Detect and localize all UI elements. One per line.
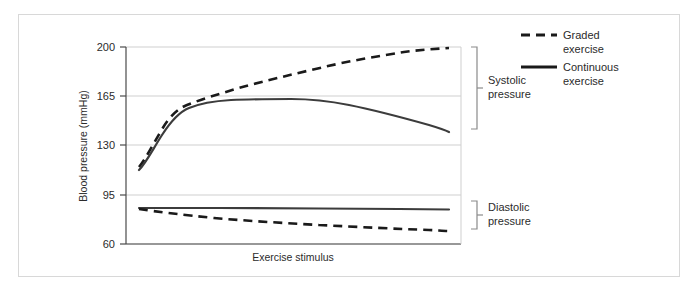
legend-label-continuous-line2: exercise <box>563 75 604 87</box>
bracket-label-systolic-line1: Systolic <box>488 74 526 86</box>
bracket-label-systolic-line2: pressure <box>488 88 531 100</box>
bracket-label-diastolic-line2: pressure <box>488 215 531 227</box>
legend: Graded exercise Continuous exercise <box>521 29 619 87</box>
legend-label-graded-line1: Graded <box>563 29 600 41</box>
x-axis-title: Exercise stimulus <box>252 251 334 263</box>
series-line-graded-systolic <box>139 48 449 167</box>
series-line-continuous-diastolic <box>139 208 449 210</box>
bracket-label-diastolic-line1: Diastolic <box>488 201 530 213</box>
bracket-systolic <box>471 47 483 129</box>
y-tick-label-165: 165 <box>97 90 115 102</box>
y-tick-label-200: 200 <box>97 41 115 53</box>
legend-label-graded-line2: exercise <box>563 43 604 55</box>
figure-frame: 200 165 130 95 60 Blood pressure (mmHg) … <box>18 14 680 277</box>
blood-pressure-line-chart: 200 165 130 95 60 Blood pressure (mmHg) … <box>19 15 681 278</box>
y-tick-label-130: 130 <box>97 139 115 151</box>
bracket-diastolic <box>471 201 483 229</box>
legend-label-continuous-line1: Continuous <box>563 61 619 73</box>
y-axis <box>120 47 126 244</box>
y-tick-label-95: 95 <box>103 189 115 201</box>
y-tick-label-60: 60 <box>103 238 115 250</box>
y-axis-title: Blood pressure (mmHg) <box>77 90 89 201</box>
series-line-continuous-systolic <box>139 99 449 170</box>
series-line-graded-diastolic <box>139 209 449 231</box>
